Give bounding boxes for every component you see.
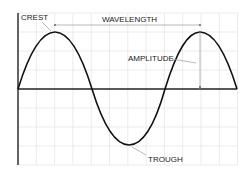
amplitude-label: AMPLITUDE xyxy=(128,54,174,63)
wave-diagram: CREST WAVELENGTH AMPLITUDE TROUGH xyxy=(0,0,248,177)
trough-leader xyxy=(132,147,146,155)
crest-label: CREST xyxy=(21,13,48,22)
trough-label: TROUGH xyxy=(148,155,183,164)
crest-leader xyxy=(42,22,51,31)
wavelength-label: WAVELENGTH xyxy=(102,15,157,24)
